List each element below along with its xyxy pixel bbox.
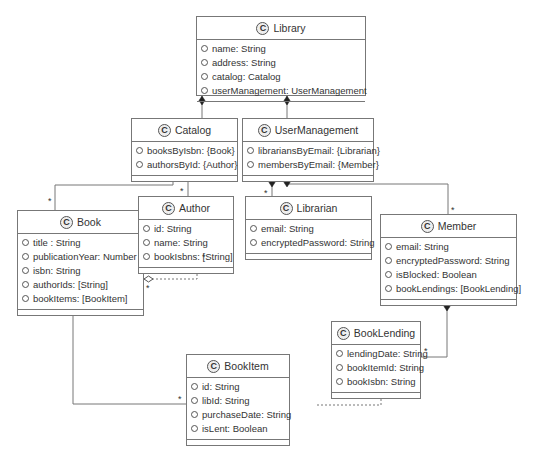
operations-compartment (246, 254, 371, 259)
attribute-list: librariansByEmail: {Librarian} membersBy… (243, 142, 373, 176)
operations-compartment (381, 300, 516, 305)
multiplicity-label: * (264, 188, 268, 198)
attribute: purchaseDate: String (191, 408, 285, 422)
class-header: C Librarian (246, 197, 371, 220)
class-header: C BookLending (332, 322, 420, 345)
operations-compartment (332, 393, 420, 398)
attribute-list: booksByIsbn: {Book} authorsById: {Author… (132, 142, 237, 176)
attribute-list: email: String encryptedPassword: String … (381, 238, 516, 300)
class-name: BookLending (354, 327, 415, 339)
operations-compartment (243, 176, 373, 181)
attribute: isBlocked: Boolean (385, 268, 512, 282)
attribute-list: email: String encryptedPassword: String (246, 220, 371, 254)
attribute: id: String (191, 380, 285, 394)
class-member[interactable]: C Member email: String encryptedPassword… (380, 214, 517, 306)
operations-compartment (139, 268, 233, 273)
class-header: C Book (18, 211, 143, 234)
class-c-icon: C (337, 327, 350, 340)
attribute: bookItemId: String (336, 361, 416, 375)
attribute: publicationYear: Number (22, 250, 139, 264)
class-name: Librarian (297, 202, 338, 214)
class-library[interactable]: C Library name: String address: String c… (196, 16, 366, 96)
multiplicity-label: * (146, 283, 150, 293)
attribute-list: name: String address: String catalog: Ca… (197, 40, 365, 102)
multiplicity-label: * (451, 205, 455, 215)
attribute: address: String (201, 56, 361, 70)
class-name: Catalog (175, 124, 211, 136)
attribute: userManagement: UserManagement (201, 84, 361, 98)
class-name: BookItem (224, 360, 268, 372)
attribute-list: lendingDate: String bookItemId: String b… (332, 345, 420, 393)
multiplicity-label: * (202, 252, 206, 262)
class-name: UserManagement (275, 124, 358, 136)
class-c-icon: C (421, 220, 434, 233)
attribute: email: String (385, 240, 512, 254)
class-name: Member (438, 220, 477, 232)
class-catalog[interactable]: C Catalog booksByIsbn: {Book} authorsByI… (131, 118, 238, 182)
attribute: isLent: Boolean (191, 422, 285, 436)
class-c-icon: C (162, 202, 175, 215)
class-header: C UserManagement (243, 119, 373, 142)
attribute: email: String (250, 222, 367, 236)
operations-compartment (18, 310, 143, 315)
attribute: lendingDate: String (336, 347, 416, 361)
class-author[interactable]: C Author id: String name: String bookIsb… (138, 196, 234, 274)
attribute: bookIsbns: [String] (143, 250, 229, 264)
multiplicity-label: * (180, 186, 184, 196)
attribute-list: id: String name: String bookIsbns: [Stri… (139, 220, 233, 268)
class-header: C Author (139, 197, 233, 220)
class-c-icon: C (280, 202, 293, 215)
attribute: authorIds: [String] (22, 278, 139, 292)
attribute: catalog: Catalog (201, 70, 361, 84)
class-name: Author (179, 202, 210, 214)
attribute: bookItems: [BookItem] (22, 292, 139, 306)
class-c-icon: C (256, 22, 269, 35)
class-user-management[interactable]: C UserManagement librariansByEmail: {Lib… (242, 118, 374, 182)
attribute: encryptedPassword: String (385, 254, 512, 268)
attribute: libId: String (191, 394, 285, 408)
attribute: librariansByEmail: {Librarian} (247, 144, 369, 158)
attribute: id: String (143, 222, 229, 236)
class-book-item[interactable]: C BookItem id: String libId: String purc… (186, 354, 290, 446)
attribute-list: id: String libId: String purchaseDate: S… (187, 378, 289, 440)
attribute: title : String (22, 236, 139, 250)
operations-compartment (132, 176, 237, 181)
operations-compartment (197, 102, 365, 107)
class-book-lending[interactable]: C BookLending lendingDate: String bookIt… (331, 321, 421, 399)
attribute: name: String (201, 42, 361, 56)
attribute: bookLendings: [BookLending] (385, 282, 512, 296)
class-header: C Library (197, 17, 365, 40)
class-name: Library (273, 22, 305, 34)
multiplicity-label: * (48, 196, 52, 206)
multiplicity-label: * (424, 346, 428, 356)
class-c-icon: C (60, 216, 73, 229)
attribute: booksByIsbn: {Book} (136, 144, 233, 158)
attribute: encryptedPassword: String (250, 236, 367, 250)
attribute: authorsById: {Author} (136, 158, 233, 172)
attribute: membersByEmail: {Member} (247, 158, 369, 172)
attribute: name: String (143, 236, 229, 250)
class-header: C BookItem (187, 355, 289, 378)
class-c-icon: C (207, 360, 220, 373)
attribute: bookIsbn: String (336, 375, 416, 389)
class-header: C Catalog (132, 119, 237, 142)
class-c-icon: C (158, 124, 171, 137)
class-book[interactable]: C Book title : String publicationYear: N… (17, 210, 144, 316)
class-c-icon: C (258, 124, 271, 137)
multiplicity-label: * (178, 394, 182, 404)
class-librarian[interactable]: C Librarian email: String encryptedPassw… (245, 196, 372, 260)
operations-compartment (187, 440, 289, 445)
class-header: C Member (381, 215, 516, 238)
attribute-list: title : String publicationYear: Number i… (18, 234, 143, 310)
attribute: isbn: String (22, 264, 139, 278)
class-name: Book (77, 216, 101, 228)
